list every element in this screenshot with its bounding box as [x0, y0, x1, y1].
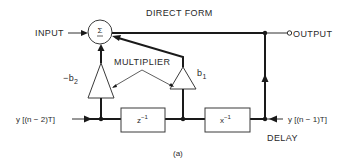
- output-terminal-icon: [287, 31, 291, 35]
- sigma-icon: Σ: [98, 26, 103, 35]
- delay-box-z: z−1: [121, 108, 165, 132]
- multiplier-b2: [88, 63, 114, 98]
- summer-node: Σ: [88, 20, 112, 44]
- figure-caption: (a): [173, 149, 183, 158]
- right-signal-label: y [(n − 1)T]: [288, 115, 327, 124]
- left-signal-label: y [(n − 2)T]: [16, 115, 55, 124]
- input-arrow-icon: [81, 30, 88, 36]
- right-signal-arrow-icon: [269, 116, 277, 123]
- junction-left: [99, 117, 103, 121]
- multiplier-leader-lines: [113, 70, 172, 87]
- diagram-title: DIRECT FORM: [146, 8, 213, 18]
- output-label: OUTPUT: [293, 29, 332, 39]
- up-arrow-icon: [262, 74, 269, 82]
- coef-b2-label: −b2: [63, 73, 78, 85]
- junction-middle: [181, 117, 185, 121]
- multiplier-b1: [170, 67, 196, 89]
- delay-box-x: x−1: [205, 108, 250, 132]
- b2-arrow-icon: [98, 44, 105, 51]
- leader-arrow-left-icon: [112, 84, 117, 88]
- junction-right: [263, 117, 267, 121]
- multiplier-label: MULTIPLIER: [114, 57, 170, 67]
- coef-b1-label: b1: [197, 68, 207, 80]
- input-label: INPUT: [35, 28, 64, 38]
- b1-arrow-icon: [112, 35, 121, 41]
- delay-label: DELAY: [267, 133, 298, 143]
- direct-form-diagram: DIRECT FORM INPUT Σ OUTPUT −b2 b1 MULTIP…: [0, 0, 354, 168]
